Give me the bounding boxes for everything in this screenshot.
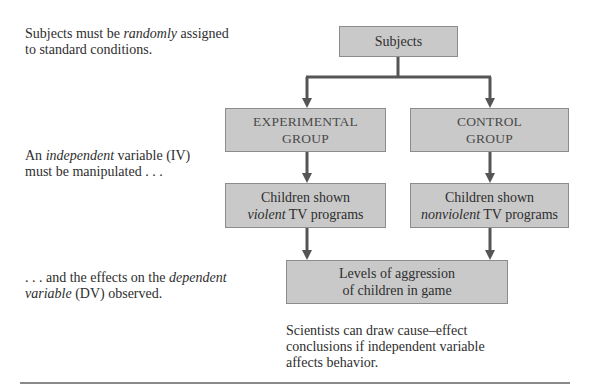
box-label: violent TV programs <box>247 206 363 223</box>
box-control-group: CONTROL GROUP <box>410 108 569 152</box>
arrowhead-icon <box>485 98 495 108</box>
box-label: GROUP <box>282 130 329 147</box>
box-subjects: Subjects <box>339 26 458 57</box>
box-label: EXPERIMENTAL <box>253 113 358 130</box>
box-aggression-outcome: Levels of aggression of children in game <box>286 260 508 304</box>
box-label: Levels of aggression <box>339 265 455 282</box>
box-label: Children shown <box>445 189 534 206</box>
box-label: Subjects <box>375 33 422 50</box>
arrowhead-icon <box>485 250 495 260</box>
arrowhead-icon <box>302 98 312 108</box>
box-emphasis: nonviolent <box>421 207 480 222</box>
arrowhead-icon <box>302 173 312 183</box>
box-experimental-group: EXPERIMENTAL GROUP <box>225 108 386 152</box>
box-emphasis: violent <box>247 207 285 222</box>
box-nonviolent-tv: Children shown nonviolent TV programs <box>410 183 569 228</box>
box-violent-tv: Children shown violent TV programs <box>225 183 386 228</box>
box-label: CONTROL <box>457 113 522 130</box>
box-label: Children shown <box>261 189 350 206</box>
bottom-rule-divider <box>20 382 570 384</box>
box-text: TV programs <box>286 207 364 222</box>
box-label: nonviolent TV programs <box>421 206 558 223</box>
arrowhead-icon <box>485 173 495 183</box>
box-label: GROUP <box>466 130 513 147</box>
box-text: TV programs <box>480 207 558 222</box>
box-label: of children in game <box>342 282 451 299</box>
arrowhead-icon <box>302 250 312 260</box>
